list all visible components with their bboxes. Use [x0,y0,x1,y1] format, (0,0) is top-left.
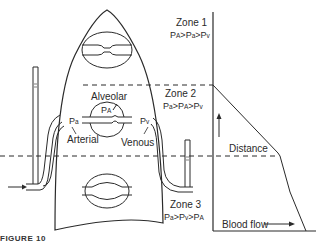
blood-flow-curve [213,85,306,231]
venous-pressure-label: Pv [140,116,149,127]
distance-axis-label: Distance [229,143,268,154]
zone3-label: Zone 3 [170,199,201,210]
arterial-pressure-label: Pa [69,116,79,127]
zone3-relation: Pa>Pv>PA [164,212,204,223]
zone1-relation: PA>Pa>Pv [170,30,210,41]
west-zones-diagram [0,0,327,243]
zone3-capillary [82,174,132,208]
pressure-subscript: v [207,32,210,39]
venous-leader [144,127,148,134]
venous-label: Venous [121,137,154,148]
arterial-leader [72,127,76,134]
distance-arrow-icon [217,113,222,137]
zone2-relation: Pa>PA>Pv [163,101,203,112]
zone1-label: Zone 1 [176,17,207,28]
inflow-arrow-icon [8,185,27,190]
blood-flow-arrow-icon [264,222,295,227]
zone2-label: Zone 2 [165,88,196,99]
pressure-subscript: a [75,118,79,125]
blood-flow-axis-label: Blood flow [222,219,268,230]
alveolar-label: Alveolar [91,91,127,102]
alveolar-pressure-label: PA [101,105,111,116]
figure-caption: FIGURE 10 [0,234,46,243]
arterial-label: Arterial [67,134,99,145]
zone1-capillary [82,32,132,68]
pressure-subscript: A [107,107,111,114]
pressure-subscript: v [200,103,203,110]
pressure-subscript: v [146,118,149,125]
pressure-subscript: A [199,214,203,221]
